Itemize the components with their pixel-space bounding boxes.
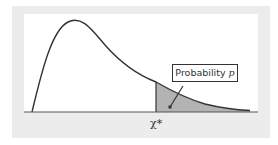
x-marker-label: χ* bbox=[150, 117, 162, 130]
probability-annotation: Probability p bbox=[172, 64, 238, 82]
annotation-variable: p bbox=[229, 67, 235, 78]
pointer-dot bbox=[169, 106, 172, 109]
annotation-text: Probability bbox=[175, 67, 228, 78]
plot-area bbox=[24, 14, 258, 112]
